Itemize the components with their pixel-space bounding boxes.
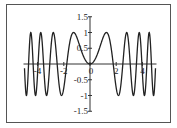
x-tick-label: 0 <box>89 66 94 76</box>
y-tick-label: -1 <box>81 91 89 101</box>
line-plot: -4-2024 1.510.5-0.5-1-1.5 <box>0 0 177 128</box>
y-tick-label: -1.5 <box>74 106 89 116</box>
y-tick-label: 1 <box>84 28 89 38</box>
y-tick-label: -0.5 <box>74 75 89 85</box>
y-tick-label: 0.5 <box>77 43 89 53</box>
y-tick-label: 1.5 <box>77 12 89 22</box>
